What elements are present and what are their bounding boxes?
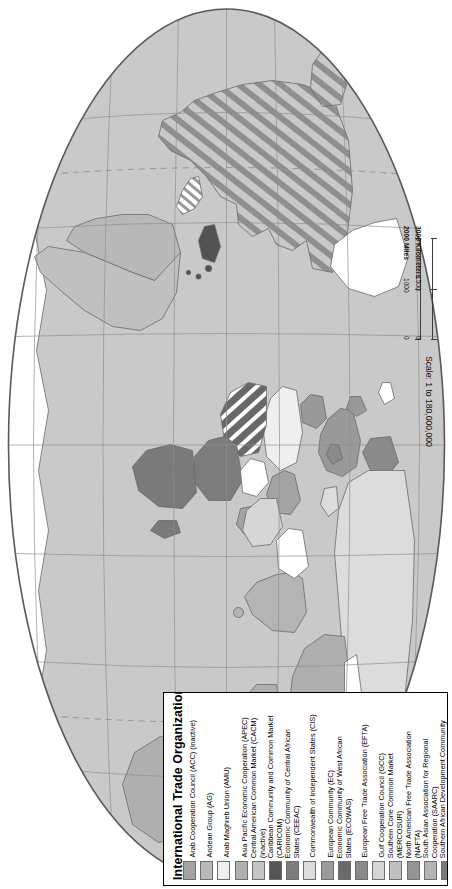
scale-label-km-unit: 3000 Kilometers [415, 226, 422, 278]
scale-ratio-text: Scale: 1 to 180,000,000 [424, 356, 434, 447]
legend-inner: International Trade Organizations Arab C… [164, 693, 448, 886]
legend-swatch [441, 861, 448, 880]
legend-swatch [269, 861, 282, 880]
region-antarctica [0, 30, 48, 865]
legend-label: Economic Community of Central AfricanSta… [284, 729, 301, 858]
legend-label: Caribbean Community and Common Market(CA… [267, 715, 284, 858]
scale-label-km-1500: 1500 [415, 276, 422, 291]
region-apec-nz [110, 852, 138, 876]
legend-swatch [389, 861, 402, 880]
legend-swatch [200, 861, 213, 880]
scale-tick-km-1500 [431, 289, 437, 290]
legend-swatch [252, 861, 265, 880]
scale-label-miles-unit: 2000 Miles [403, 226, 410, 260]
scale-label-miles-1000: 1000 [403, 278, 410, 293]
legend-title: International Trade Organizations [171, 692, 185, 880]
legend-swatch [372, 861, 385, 880]
legend-label: Central American Common Market (CACM)(in… [250, 718, 267, 858]
legend-label: South Asian Association for RegionalCoop… [422, 739, 439, 858]
scale-label-km-0: 0 [415, 336, 422, 340]
legend-swatch [303, 861, 316, 880]
legend-label: Economic Community of West AfricanStates… [336, 736, 353, 858]
legend-swatch [286, 861, 299, 880]
legend-label: Andean Group (AG) [207, 793, 216, 858]
legend-label: Southern Cone Common Market(MERCOSUR) [387, 753, 404, 858]
legend-label: Commonwealth of Independent States (CIS) [310, 715, 319, 858]
legend-swatch [235, 861, 248, 880]
legend-swatch [407, 861, 420, 880]
legend-panel[interactable]: International Trade Organizations Arab C… [163, 692, 448, 886]
scale-block: 0 1000 2000 Miles 0 1500 3000 Kilometers… [398, 224, 452, 460]
legend-swatch [217, 861, 230, 880]
scale-tick-km-3000 [431, 238, 437, 239]
legend-label: Arab Cooperation Council (ACC) (inactive… [189, 721, 198, 858]
legend-label: Arab Maghreb Union (AMU) [224, 768, 233, 858]
scale-label-miles-0: 0 [403, 336, 410, 340]
legend-label: European Free Trade Association (EFTA) [361, 725, 370, 858]
legend-swatch [321, 861, 334, 880]
scale-bar: 0 1000 2000 Miles 0 1500 3000 Kilometers [398, 224, 452, 354]
scale-tick-km-0 [431, 339, 437, 340]
map-page: 0 1000 2000 Miles 0 1500 3000 Kilometers… [0, 0, 452, 889]
legend-swatch [338, 861, 351, 880]
legend-label: Southern African Development Community(S… [439, 720, 448, 858]
legend-swatch [355, 861, 368, 880]
legend-swatch [424, 861, 437, 880]
legend-label: North American Free Trade Association(NA… [404, 731, 421, 858]
legend-swatch [183, 861, 196, 880]
